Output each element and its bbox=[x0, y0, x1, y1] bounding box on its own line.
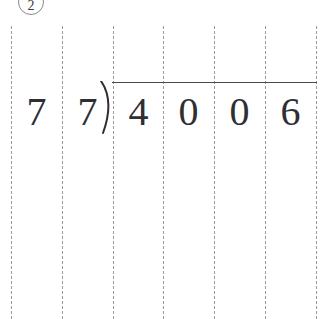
column-guide-4 bbox=[163, 26, 164, 319]
problem-number-label: 2 bbox=[28, 0, 35, 13]
dividend-digit-2[interactable]: 0 bbox=[163, 92, 214, 132]
column-guide-7 bbox=[316, 26, 317, 319]
division-vinculum bbox=[112, 82, 317, 83]
divisor-digit-ones[interactable]: 7 bbox=[62, 92, 113, 132]
column-guide-3 bbox=[113, 26, 114, 319]
dividend-digit-1[interactable]: 4 bbox=[113, 92, 164, 132]
long-division-worksheet: 2 7 7 4 0 0 6 bbox=[0, 0, 324, 319]
problem-number-badge: 2 bbox=[18, 0, 44, 15]
divisor-digit-tens[interactable]: 7 bbox=[11, 92, 62, 132]
column-guide-6 bbox=[265, 26, 266, 319]
column-guide-2 bbox=[62, 26, 63, 319]
dividend-digit-4[interactable]: 6 bbox=[265, 92, 316, 132]
column-guide-1 bbox=[11, 26, 12, 319]
dividend-digit-3[interactable]: 0 bbox=[214, 92, 265, 132]
column-guide-5 bbox=[214, 26, 215, 319]
